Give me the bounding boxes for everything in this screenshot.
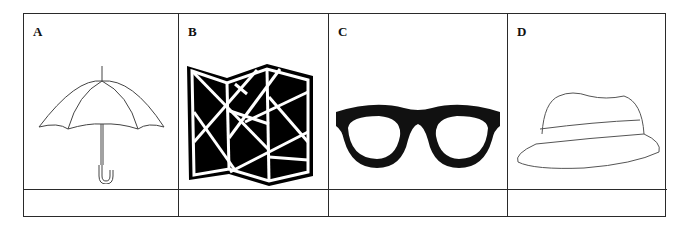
answer-cell-a[interactable] [24,189,178,216]
image-cell-c: C [329,14,507,189]
picture-grid: A B [23,13,666,217]
umbrella-icon [36,66,171,184]
column-a: A [24,14,178,216]
column-c: C [328,14,507,216]
image-cell-d: D [508,14,667,189]
letter-label: C [338,24,347,40]
letter-label: B [188,24,197,40]
letter-label: A [33,24,42,40]
folded-map-icon [185,62,317,188]
answer-cell-c[interactable] [329,189,507,216]
column-b: B [178,14,328,216]
image-cell-a: A [24,14,178,189]
answer-cell-b[interactable] [179,189,328,216]
hat-icon [514,82,664,172]
image-cell-b: B [179,14,328,189]
answer-cell-d[interactable] [508,189,667,216]
letter-label: D [517,24,526,40]
glasses-icon [334,102,502,170]
column-d: D [507,14,667,216]
